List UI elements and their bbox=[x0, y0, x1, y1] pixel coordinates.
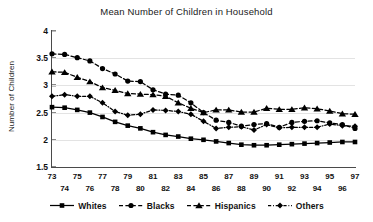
legend-item-whites[interactable]: Whites bbox=[49, 200, 106, 211]
y-tick-label: 3 bbox=[8, 80, 48, 90]
legend-label: Whites bbox=[78, 201, 106, 211]
x-tick-label: 74 bbox=[60, 184, 69, 193]
legend-swatch-diamond-icon bbox=[267, 200, 293, 211]
x-tick-label: 97 bbox=[351, 172, 360, 181]
x-tick-label: 77 bbox=[98, 172, 107, 181]
x-tick-label: 79 bbox=[123, 172, 132, 181]
legend-item-others[interactable]: Others bbox=[267, 200, 324, 211]
y-tick-label: 4 bbox=[8, 26, 48, 36]
x-tick-label: 78 bbox=[111, 184, 120, 193]
x-tick-label: 92 bbox=[287, 184, 296, 193]
x-tick-label: 76 bbox=[85, 184, 94, 193]
x-tick-label: 82 bbox=[161, 184, 170, 193]
y-axis-ticks: 1.522.533.54 bbox=[4, 0, 48, 222]
x-tick-label: 81 bbox=[149, 172, 158, 181]
x-tick-label: 95 bbox=[325, 172, 334, 181]
grid-line bbox=[52, 58, 355, 59]
y-tick-label: 3.5 bbox=[8, 53, 48, 63]
y-axis-line bbox=[51, 30, 52, 168]
x-tick-label: 87 bbox=[224, 172, 233, 181]
legend-swatch-square-icon bbox=[49, 200, 75, 211]
y-tick-label: 1.5 bbox=[8, 162, 48, 172]
x-tick-label: 91 bbox=[275, 172, 284, 181]
x-tick-label: 85 bbox=[199, 172, 208, 181]
chart-legend: WhitesBlacksHispanicsOthers bbox=[0, 200, 373, 211]
x-tick-label: 94 bbox=[313, 184, 322, 193]
y-tick-label: 2.5 bbox=[8, 108, 48, 118]
legend-item-blacks[interactable]: Blacks bbox=[118, 200, 175, 211]
legend-swatch-circle-icon bbox=[118, 200, 144, 211]
x-tick-label: 73 bbox=[48, 172, 57, 181]
legend-swatch-triangle-icon bbox=[186, 200, 212, 211]
x-tick-label: 84 bbox=[186, 184, 195, 193]
x-tick-label: 88 bbox=[237, 184, 246, 193]
x-tick-label: 75 bbox=[73, 172, 82, 181]
x-tick-label: 90 bbox=[262, 184, 271, 193]
x-tick-label: 86 bbox=[212, 184, 221, 193]
legend-label: Hispanics bbox=[215, 201, 256, 211]
chart-title: Mean Number of Children in Household bbox=[0, 6, 373, 17]
chart-figure: Mean Number of Children in Household Num… bbox=[0, 0, 373, 222]
x-tick-label: 80 bbox=[136, 184, 145, 193]
x-tick-label: 93 bbox=[300, 172, 309, 181]
legend-item-hispanics[interactable]: Hispanics bbox=[186, 200, 256, 211]
x-axis-line bbox=[51, 167, 356, 168]
plot-area bbox=[52, 31, 355, 167]
legend-label: Others bbox=[296, 201, 324, 211]
grid-line bbox=[52, 140, 355, 141]
x-tick-label: 89 bbox=[250, 172, 259, 181]
grid-line bbox=[52, 85, 355, 86]
y-tick-label: 2 bbox=[8, 135, 48, 145]
legend-label: Blacks bbox=[147, 201, 175, 211]
x-tick-label: 83 bbox=[174, 172, 183, 181]
grid-line bbox=[52, 113, 355, 114]
x-tick-label: 96 bbox=[338, 184, 347, 193]
